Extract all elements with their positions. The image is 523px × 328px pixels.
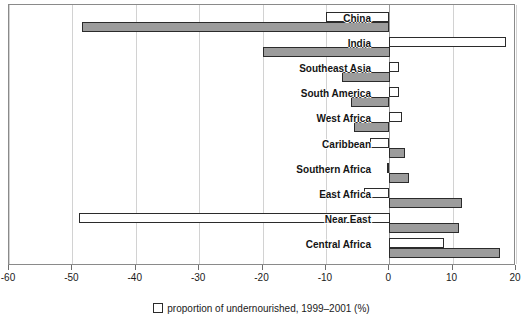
x-tick	[515, 265, 516, 270]
x-tick-label: -40	[128, 272, 142, 283]
x-tick-label: -10	[318, 272, 332, 283]
category-label: India	[348, 36, 371, 51]
bar-white	[370, 138, 389, 148]
bar-row: West Africa	[9, 111, 514, 137]
bar-row: Southern Africa	[9, 162, 514, 188]
legend-label: proportion of undernourished, 1999–2001 …	[167, 303, 369, 314]
x-axis-tick-labels: -60-50-40-30-20-1001020	[0, 272, 523, 286]
bar-rows: ChinaIndiaSoutheast AsiaSouth AmericaWes…	[9, 5, 514, 264]
bar-gray	[389, 148, 405, 158]
x-tick	[262, 265, 263, 270]
bar-white	[389, 37, 506, 47]
bar-row: East Africa	[9, 187, 514, 213]
category-label: Central Africa	[306, 237, 371, 252]
x-tick-label: -50	[64, 272, 78, 283]
bar-row: Southeast Asia	[9, 61, 514, 87]
bar-chart: ChinaIndiaSoutheast AsiaSouth AmericaWes…	[0, 0, 523, 328]
bar-row: India	[9, 36, 514, 62]
category-label: Near East	[325, 212, 371, 227]
bar-row: Near East	[9, 212, 514, 238]
x-tick-label: -30	[191, 272, 205, 283]
bar-white	[389, 238, 444, 248]
x-tick	[325, 265, 326, 270]
category-label: China	[343, 11, 371, 26]
x-tick	[452, 265, 453, 270]
x-tick	[135, 265, 136, 270]
bar-gray	[389, 248, 500, 258]
category-label: South America	[301, 86, 371, 101]
legend-item: proportion of undernourished, 1999–2001 …	[153, 303, 369, 314]
x-tick	[8, 265, 9, 270]
bar-gray	[389, 223, 459, 233]
x-tick	[388, 265, 389, 270]
bar-white	[387, 163, 389, 173]
bar-white	[389, 87, 399, 97]
bar-row: South America	[9, 86, 514, 112]
legend-swatch-icon	[153, 303, 163, 313]
bar-gray	[389, 173, 409, 183]
x-tick-label: 0	[385, 272, 391, 283]
x-tick-label: -20	[254, 272, 268, 283]
bar-white	[389, 62, 399, 72]
x-axis-tickmarks	[8, 265, 515, 271]
bar-gray	[389, 198, 462, 208]
x-tick	[71, 265, 72, 270]
category-label: East Africa	[319, 187, 371, 202]
bar-row: Central Africa	[9, 237, 514, 263]
bar-row: Caribbean	[9, 137, 514, 163]
x-tick-label: 10	[446, 272, 457, 283]
category-label: Caribbean	[322, 137, 371, 152]
x-tick	[198, 265, 199, 270]
gridline	[516, 5, 517, 264]
category-label: Southeast Asia	[299, 61, 371, 76]
category-label: West Africa	[317, 111, 371, 126]
x-tick-label: -60	[1, 272, 15, 283]
category-label: Southern Africa	[296, 162, 371, 177]
chart-legend: proportion of undernourished, 1999–2001 …	[0, 303, 523, 314]
bar-white	[389, 112, 402, 122]
bar-row: China	[9, 11, 514, 37]
x-tick-label: 20	[509, 272, 520, 283]
plot-area: ChinaIndiaSoutheast AsiaSouth AmericaWes…	[8, 4, 515, 265]
